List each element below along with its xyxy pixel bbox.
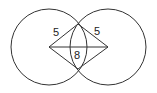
right-lower-radius — [78, 47, 108, 69]
right-radius-label: 5 — [94, 26, 100, 37]
diagram-canvas: 5 5 8 — [0, 0, 157, 93]
center-distance-label: 8 — [74, 50, 80, 61]
circles-diagram — [0, 0, 157, 93]
right-upper-radius — [78, 24, 108, 47]
left-radius-label: 5 — [53, 27, 59, 38]
